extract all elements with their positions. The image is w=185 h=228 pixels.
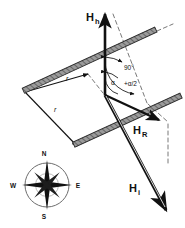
compass-label-n: N: [42, 150, 47, 157]
figure-canvas: H h H R H i 90° α +α/2 r r: [0, 0, 185, 228]
label-Hh-sub: h: [95, 17, 100, 26]
label-angle-90: 90°: [124, 64, 134, 71]
label-HR-sub: R: [142, 130, 148, 139]
label-angle-half-alpha: +α/2: [124, 80, 137, 87]
label-angle-alpha: α: [111, 79, 115, 86]
label-Hh-base: H: [86, 11, 94, 23]
compass-label-w: W: [10, 182, 17, 189]
label-Hi-base: H: [129, 182, 137, 194]
label-HR-base: H: [133, 124, 141, 136]
compass-label-s: S: [42, 213, 47, 220]
compass-label-e: E: [76, 182, 81, 189]
vector-diagram-svg: H h H R H i 90° α +α/2 r r: [0, 0, 185, 228]
label-Hi-sub: i: [138, 188, 140, 197]
